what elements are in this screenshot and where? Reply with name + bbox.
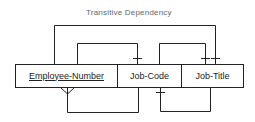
- field-job-code: Job-Code: [118, 64, 181, 87]
- emp-jobcode-line: [78, 44, 138, 65]
- jobcode-jobtitle-line: [160, 44, 206, 65]
- jobcode-emp-line: [68, 87, 139, 113]
- field-employee-number: Employee-Number: [16, 64, 117, 87]
- field-job-title: Job-Title: [182, 64, 243, 87]
- dependency-lines: [0, 0, 255, 122]
- jobtitle-jobcode-line: [161, 87, 211, 112]
